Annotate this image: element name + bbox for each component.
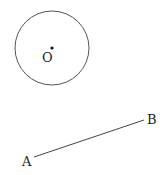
geometry-diagram: O A B	[0, 0, 164, 175]
label-a: A	[21, 154, 32, 169]
label-b: B	[147, 112, 157, 127]
label-o: O	[42, 50, 53, 65]
segment-ab	[34, 120, 144, 157]
